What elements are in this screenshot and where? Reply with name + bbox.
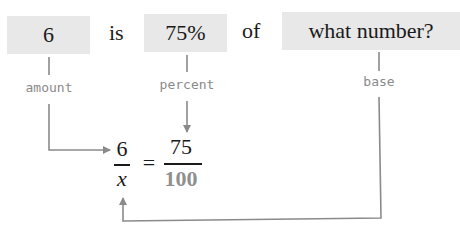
base-value: what number? [308, 18, 433, 44]
right-fraction-bar [164, 163, 202, 165]
left-denominator: x [117, 166, 127, 192]
amount-box: 6 [7, 16, 90, 54]
word-is: is [109, 20, 124, 46]
word-of: of [242, 18, 260, 44]
left-numerator: 6 [117, 136, 128, 162]
right-numerator: 75 [170, 134, 192, 160]
amount-label: amount [26, 80, 73, 95]
base-box: what number? [282, 12, 460, 50]
amount-value: 6 [43, 22, 54, 48]
equals-sign: = [143, 150, 155, 176]
base-label: base [363, 74, 394, 89]
right-denominator: 100 [165, 166, 198, 192]
percent-value: 75% [165, 20, 205, 46]
percent-label: percent [160, 77, 215, 92]
percent-box: 75% [144, 14, 227, 52]
